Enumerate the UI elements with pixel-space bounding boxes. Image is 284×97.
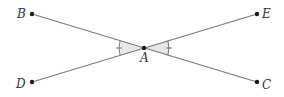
- label-c: C: [262, 78, 271, 92]
- point-d: [30, 80, 34, 84]
- point-a: [142, 46, 146, 50]
- point-e: [255, 12, 259, 16]
- label-e: E: [261, 7, 271, 21]
- label-a: A: [139, 51, 149, 65]
- point-c: [255, 80, 259, 84]
- label-b: B: [16, 7, 26, 21]
- point-b: [30, 12, 34, 16]
- label-d: D: [15, 77, 26, 91]
- intersecting-lines-diagram: A B C D E: [0, 0, 284, 97]
